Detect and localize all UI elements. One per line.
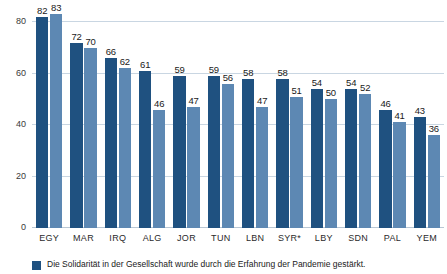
x-axis-tick-label: SDN xyxy=(348,233,368,243)
bar: 36 xyxy=(428,135,440,228)
bar-value-label: 43 xyxy=(415,105,425,116)
bar-value-label: 61 xyxy=(140,59,150,70)
y-axis-tick-label: 20 xyxy=(16,171,26,181)
bar-group: 6662IRQ xyxy=(101,22,135,228)
bar: 52 xyxy=(359,94,371,228)
bar: 59 xyxy=(173,76,185,228)
bar-group: 5452SDN xyxy=(341,22,375,228)
bar: 46 xyxy=(153,110,165,228)
legend-swatch-icon xyxy=(32,261,41,270)
bar-group: 5847LBN xyxy=(238,22,272,228)
bar-value-label: 62 xyxy=(120,56,130,67)
bar: 47 xyxy=(187,107,199,228)
bar: 62 xyxy=(119,68,131,228)
bar-value-label: 58 xyxy=(243,67,253,78)
plot-area: 020406080 8283EGY7270MAR6662IRQ6146ALG59… xyxy=(32,22,444,228)
bar: 72 xyxy=(70,43,82,228)
bar-value-label: 46 xyxy=(380,98,390,109)
bar-group: 5450LBY xyxy=(307,22,341,228)
bar: 56 xyxy=(222,84,234,228)
bar: 83 xyxy=(50,14,62,228)
bar-value-label: 47 xyxy=(188,95,198,106)
bar-value-label: 59 xyxy=(174,64,184,75)
bar: 70 xyxy=(84,48,96,228)
x-axis-tick-label: JOR xyxy=(177,233,196,243)
bar: 43 xyxy=(414,117,426,228)
x-axis-tick-label: SYR* xyxy=(278,233,301,243)
bar-group: 6146ALG xyxy=(135,22,169,228)
bar-group: 5851SYR* xyxy=(272,22,306,228)
bar-chart: 020406080 8283EGY7270MAR6662IRQ6146ALG59… xyxy=(0,0,447,274)
bar: 51 xyxy=(290,97,302,228)
bar-group: 4336YEM xyxy=(410,22,444,228)
legend-label: Die Solidarität in der Gesellschaft wurd… xyxy=(47,259,365,270)
bar-value-label: 36 xyxy=(429,123,439,134)
x-axis-tick-label: ALG xyxy=(143,233,162,243)
bar-value-label: 47 xyxy=(257,95,267,106)
bar-value-label: 54 xyxy=(312,77,322,88)
x-axis-tick-label: LBN xyxy=(246,233,264,243)
bar-value-label: 66 xyxy=(106,46,116,57)
bar-value-label: 52 xyxy=(360,82,370,93)
bar: 58 xyxy=(276,79,288,228)
bar: 47 xyxy=(256,107,268,228)
bar-value-label: 41 xyxy=(394,110,404,121)
y-axis-tick-label: 60 xyxy=(16,68,26,78)
y-axis-tick-label: 40 xyxy=(16,119,26,129)
bar-value-label: 51 xyxy=(291,85,301,96)
bar: 41 xyxy=(393,122,405,228)
y-axis-tick-label: 0 xyxy=(21,222,26,232)
bar-value-label: 58 xyxy=(277,67,287,78)
bar-value-label: 54 xyxy=(346,77,356,88)
x-axis-tick-label: PAL xyxy=(384,233,401,243)
bar-value-label: 56 xyxy=(223,72,233,83)
bar-group: 8283EGY xyxy=(32,22,66,228)
chart-legend: Die Solidarität in der Gesellschaft wurd… xyxy=(32,259,365,270)
x-axis-tick-label: EGY xyxy=(39,233,59,243)
bar-group: 4641PAL xyxy=(375,22,409,228)
bar: 61 xyxy=(139,71,151,228)
bar: 46 xyxy=(379,110,391,228)
bar: 82 xyxy=(36,17,48,228)
x-axis-tick-label: YEM xyxy=(417,233,437,243)
bar-value-label: 50 xyxy=(326,87,336,98)
bar-value-label: 59 xyxy=(209,64,219,75)
x-axis-tick-label: IRQ xyxy=(109,233,126,243)
bar-group: 5947JOR xyxy=(169,22,203,228)
bar-value-label: 46 xyxy=(154,98,164,109)
bar-value-label: 70 xyxy=(85,36,95,47)
x-axis-tick-label: LBY xyxy=(315,233,333,243)
bar-group: 5956TUN xyxy=(204,22,238,228)
x-axis-tick-label: TUN xyxy=(211,233,230,243)
bar: 54 xyxy=(311,89,323,228)
bar: 50 xyxy=(325,99,337,228)
bar-value-label: 83 xyxy=(51,2,61,13)
bar: 59 xyxy=(208,76,220,228)
bar: 54 xyxy=(345,89,357,228)
bar: 66 xyxy=(105,58,117,228)
bar-group: 7270MAR xyxy=(66,22,100,228)
bar-value-label: 72 xyxy=(71,31,81,42)
y-axis-tick-label: 80 xyxy=(16,16,26,26)
bar-value-label: 82 xyxy=(37,5,47,16)
x-axis-tick-label: MAR xyxy=(73,233,94,243)
bar: 58 xyxy=(242,79,254,228)
